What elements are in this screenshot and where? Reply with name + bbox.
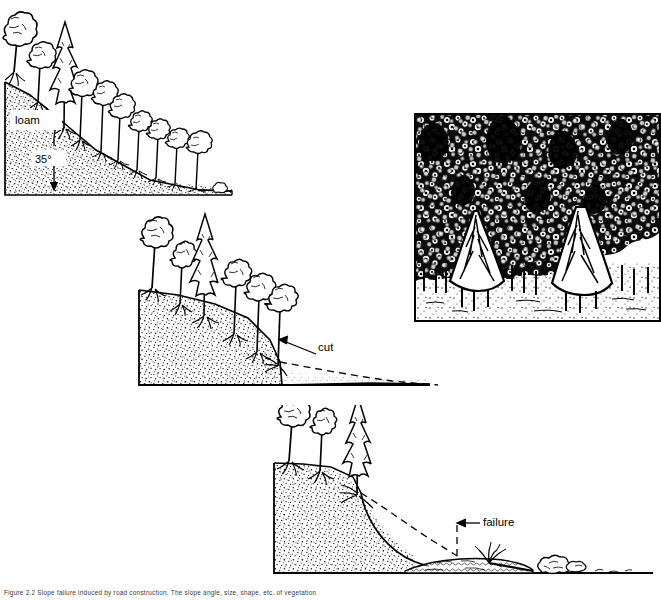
tree-deciduous: [128, 111, 152, 179]
tree-deciduous: [165, 128, 189, 191]
scattered-debris: [595, 569, 632, 572]
tree-conifer-at-scar: [340, 405, 373, 508]
panel-failed-slope-drawing: [265, 405, 661, 585]
canopy-photo-image: [416, 115, 659, 320]
tree-deciduous: [146, 119, 170, 186]
figure-caption: Figure 2.2 Slope failure induced by road…: [4, 590, 316, 596]
tree-deciduous: [186, 131, 212, 192]
soil-mass-fill-2: [139, 290, 282, 385]
panel-failed-slope: failure: [265, 405, 661, 585]
figure-slope-failure: loam 35°: [0, 0, 661, 600]
shrub-clump: [538, 555, 586, 573]
figure-caption-number: Figure 2.2: [4, 589, 35, 596]
soil-mass-fill-2: [274, 463, 415, 573]
tree-deciduous: [140, 217, 173, 302]
canopy-halftone-drawing: [416, 115, 659, 320]
slope-angle-label: 35°: [35, 154, 52, 165]
cut-leader-arrow: [279, 336, 316, 354]
soil-type-label: loam: [15, 115, 40, 127]
failure-label: failure: [483, 517, 514, 529]
figure-caption-text: Slope failure induced by road constructi…: [37, 589, 316, 596]
cut-label: cut: [318, 342, 333, 354]
panel-canopy-photo: [414, 113, 661, 322]
failure-leader-arrow: [457, 519, 480, 527]
shrub: [213, 182, 228, 192]
panel-intact-slope-drawing: [0, 0, 240, 205]
panel-intact-slope: loam 35°: [0, 0, 240, 205]
